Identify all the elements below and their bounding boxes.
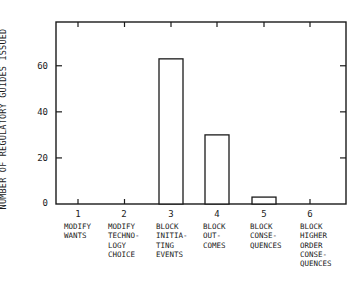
x-category-label-1: MODIFY WANTS [64,222,91,241]
plot-frame [56,22,346,204]
y-tick-label-40: 40 [28,107,48,117]
y-tick-label-20: 20 [28,153,48,163]
x-category-number-6: 6 [300,209,320,219]
x-category-label-4: BLOCK OUT- COMES [203,222,226,250]
x-category-label-5: BLOCK CONSE- QUENCES [250,222,282,250]
x-category-number-5: 5 [254,209,274,219]
x-category-label-3: BLOCK INITIA- TING EVENTS [156,222,188,259]
x-category-number-1: 1 [68,209,88,219]
bar-3 [159,59,183,204]
bar-4 [205,135,229,204]
x-category-number-3: 3 [161,209,181,219]
x-category-label-6: BLOCK HIGHER ORDER CONSE- QUENCES [300,222,332,268]
x-category-number-4: 4 [207,209,227,219]
bars [159,59,276,204]
x-category-number-2: 2 [114,209,134,219]
bar-5 [252,197,276,204]
plot-border [56,22,346,204]
y-tick-label-0: 0 [28,198,48,208]
y-axis-label: NUMBER OF REGULATORY GUIDES ISSUED [0,19,10,219]
y-tick-label-60: 60 [28,61,48,71]
x-category-label-2: MODIFY TECHNO- LOGY CHOICE [108,222,140,259]
